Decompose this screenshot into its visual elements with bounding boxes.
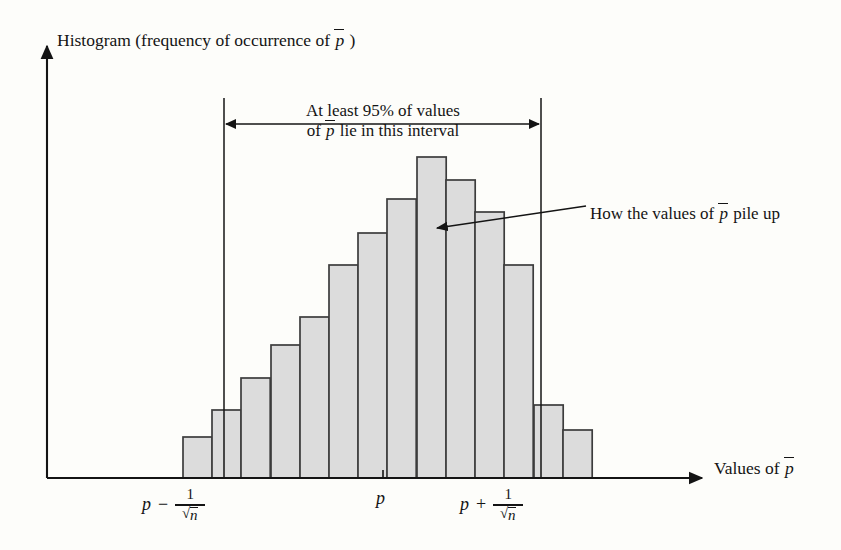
x-axis-title-text: Values of bbox=[714, 458, 784, 478]
histogram-bar bbox=[475, 212, 504, 478]
x-tick-label-upper-bound: p + 1 n bbox=[460, 486, 523, 523]
pile-up-annotation-pre: How the values of bbox=[590, 204, 718, 223]
x-axis-title: Values of p bbox=[714, 458, 795, 479]
histogram-bar bbox=[417, 157, 446, 478]
histogram-bar bbox=[271, 345, 300, 478]
lower-bound-operator: − bbox=[157, 494, 169, 515]
histogram-bar bbox=[241, 378, 270, 478]
pile-up-annotation: How the values of p pile up bbox=[590, 204, 780, 224]
upper-bound-fraction: 1 n bbox=[493, 487, 523, 524]
upper-bound-base: p bbox=[460, 494, 469, 515]
interval-annotation-line1: At least 95% of values bbox=[306, 101, 460, 120]
lower-bound-fraction: 1 n bbox=[175, 487, 205, 524]
p-bar-symbol: p bbox=[325, 121, 336, 140]
histogram-bar bbox=[358, 233, 387, 478]
y-axis-title-tail: ) bbox=[345, 30, 355, 50]
histogram-bar bbox=[504, 265, 533, 478]
radical-bar bbox=[190, 507, 199, 508]
figure-canvas: Histogram (frequency of occurrence of p … bbox=[0, 0, 841, 550]
lower-bound-expression: p − 1 n bbox=[142, 486, 205, 523]
upper-bound-radicand: n bbox=[508, 507, 516, 523]
upper-bound-expression: p + 1 n bbox=[460, 486, 523, 523]
p-bar-symbol: p bbox=[784, 458, 795, 478]
pile-up-annotation-post: pile up bbox=[729, 204, 780, 223]
lower-bound-radicand: n bbox=[190, 507, 198, 523]
histogram-bar bbox=[563, 430, 592, 478]
p-bar-symbol: p bbox=[718, 204, 729, 223]
y-axis-title-text: Histogram (frequency of occurrence of bbox=[57, 30, 334, 50]
histogram-bar bbox=[300, 317, 329, 478]
upper-bound-denominator: n bbox=[498, 506, 519, 524]
radical-bar bbox=[508, 507, 517, 508]
sqrt-group: n bbox=[183, 506, 198, 524]
histogram-bar bbox=[329, 265, 358, 478]
histogram-bars bbox=[183, 157, 592, 478]
upper-bound-operator: + bbox=[475, 494, 487, 515]
interval-annotation-line2-pre: of bbox=[307, 121, 325, 140]
p-bar-symbol: p bbox=[334, 30, 345, 50]
y-axis-title: Histogram (frequency of occurrence of p … bbox=[57, 30, 355, 51]
interval-annotation-line2-post: lie in this interval bbox=[336, 121, 460, 140]
interval-annotation-line2: of p lie in this interval bbox=[249, 121, 517, 141]
histogram-bar bbox=[387, 199, 416, 478]
x-tick-label-lower-bound: p − 1 n bbox=[142, 486, 205, 523]
lower-bound-numerator: 1 bbox=[183, 487, 197, 503]
histogram-bar bbox=[534, 405, 563, 478]
sqrt-group: n bbox=[501, 506, 516, 524]
lower-bound-denominator: n bbox=[180, 506, 201, 524]
lower-bound-base: p bbox=[142, 494, 151, 515]
interval-annotation: At least 95% of values of p lie in this … bbox=[249, 101, 517, 141]
histogram-bar bbox=[183, 437, 212, 478]
upper-bound-numerator: 1 bbox=[501, 487, 515, 503]
histogram-bar bbox=[212, 410, 241, 478]
x-tick-label-center: p bbox=[376, 488, 385, 509]
